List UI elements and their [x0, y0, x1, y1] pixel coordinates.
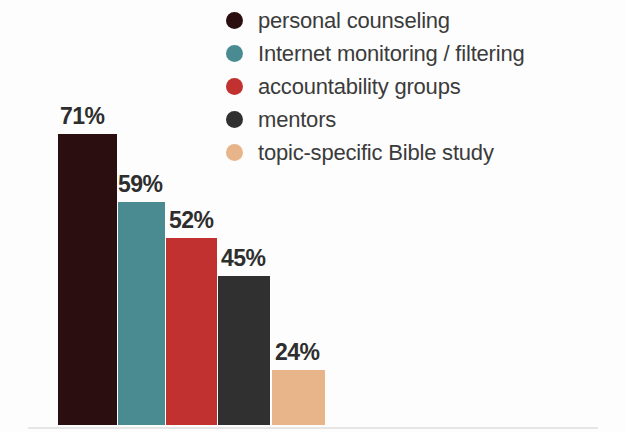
legend-item[interactable]: topic-specific Bible study [226, 136, 622, 169]
bar-chart: 71%59%52%45%24% personal counselingInter… [0, 0, 626, 432]
bar-value-label: 24% [275, 339, 320, 366]
legend-swatch-icon [226, 111, 243, 128]
bar [218, 276, 270, 425]
legend-item[interactable]: personal counseling [226, 4, 622, 37]
legend-swatch-icon [226, 144, 243, 161]
legend-item-label: Internet monitoring / filtering [258, 41, 525, 67]
chart-legend: personal counselingInternet monitoring /… [226, 4, 622, 169]
legend-swatch-icon [226, 78, 243, 95]
legend-item-label: topic-specific Bible study [258, 140, 494, 166]
bar [272, 370, 325, 425]
legend-item[interactable]: mentors [226, 103, 622, 136]
legend-swatch-icon [226, 12, 243, 29]
bar [166, 238, 217, 425]
bar-value-label: 45% [221, 245, 266, 272]
bar [58, 134, 117, 425]
bar-value-label: 52% [169, 207, 214, 234]
bar-value-label: 71% [60, 103, 105, 130]
legend-item-label: accountability groups [258, 74, 460, 100]
legend-item[interactable]: accountability groups [226, 70, 622, 103]
legend-item-label: personal counseling [258, 8, 450, 34]
bar-value-label: 59% [118, 171, 163, 198]
bar [118, 202, 165, 425]
legend-item-label: mentors [258, 107, 336, 133]
legend-item[interactable]: Internet monitoring / filtering [226, 37, 622, 70]
legend-swatch-icon [226, 45, 243, 62]
